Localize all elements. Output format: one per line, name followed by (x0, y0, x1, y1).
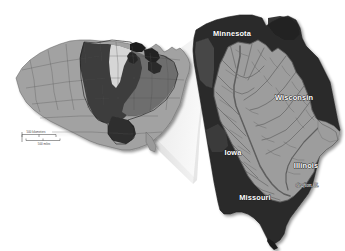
state-label-iowa: Iowa (224, 148, 242, 157)
state-label-missouri: Missouri (239, 193, 271, 202)
upper-mississippi-detail-map (193, 15, 340, 250)
city-label-grafton-il: Grafton, IL (295, 182, 318, 188)
state-label-minnesota: Minnesota (213, 29, 252, 38)
state-label-wisconsin: Wisconsin (275, 93, 314, 102)
scale-bar: 500 kilometers 500 miles (22, 130, 60, 145)
scale-kilometers-label: 500 kilometers (27, 130, 46, 134)
state-label-illinois: Illinois (294, 161, 319, 170)
map-canvas: 500 kilometers 500 miles (0, 0, 345, 251)
scale-miles-label: 500 miles (38, 142, 51, 146)
map-figure: 500 kilometers 500 miles (0, 0, 345, 251)
